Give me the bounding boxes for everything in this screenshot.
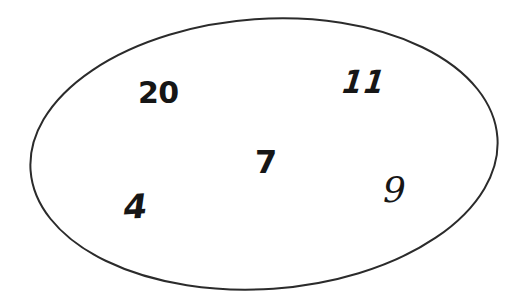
set-element-4: 4 bbox=[121, 189, 150, 224]
set-element-20: 20 bbox=[138, 78, 179, 108]
diagram-canvas: 20 11 7 4 9 bbox=[0, 0, 528, 308]
set-element-9: 9 bbox=[383, 172, 406, 208]
set-element-7: 7 bbox=[255, 146, 277, 178]
